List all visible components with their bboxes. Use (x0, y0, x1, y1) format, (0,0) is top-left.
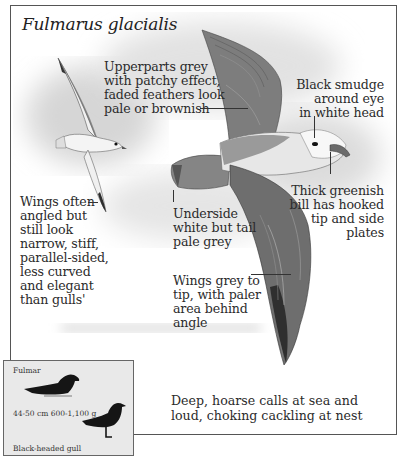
fulmar-silhouette-icon (22, 371, 82, 399)
inset-reference-label: Black-headed gull (13, 444, 81, 453)
label-wings-colour: Wings grey to tip, with paler area behin… (173, 274, 261, 330)
species-scientific-name: Fulmarus glacialis (22, 14, 177, 34)
leader-eye (314, 116, 315, 138)
leader-upperparts (200, 108, 248, 109)
gull-silhouette-icon (80, 399, 130, 441)
label-bill: Thick greenish bill has hooked tip and s… (290, 184, 384, 240)
leader-wings-shape (88, 202, 98, 203)
leader-bill (330, 152, 331, 174)
label-eye: Black smudge around eye in white head (296, 78, 384, 120)
label-wings-shape: Wings often angled but still look narrow… (20, 195, 109, 307)
leader-underside (173, 190, 174, 202)
label-underside: Underside white but tail pale grey (173, 207, 256, 249)
leader-wings-colour (251, 274, 291, 275)
size-comparison-inset: Fulmar 44-50 cm 600-1,100 g Black-headed… (3, 360, 134, 456)
label-calls: Deep, hoarse calls at sea and loud, chok… (171, 394, 363, 423)
